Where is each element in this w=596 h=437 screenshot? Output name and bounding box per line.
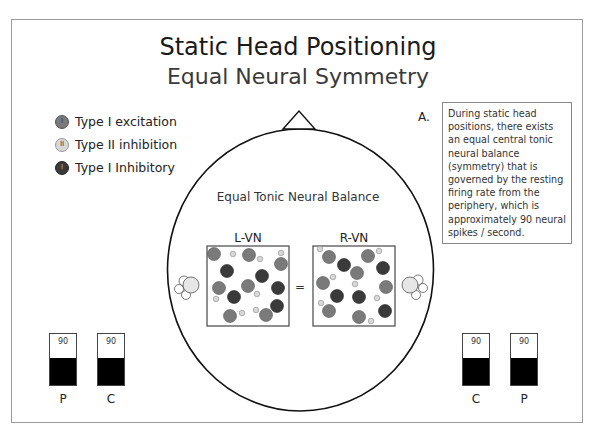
meter-fill bbox=[511, 358, 537, 385]
l-vn-label: L-VN bbox=[207, 231, 289, 245]
meter-right-p: 90 bbox=[510, 333, 538, 386]
meter-left-c: 90 bbox=[97, 333, 125, 386]
equals-sign: = bbox=[295, 280, 305, 294]
meter-fill bbox=[98, 358, 124, 385]
head-diagram bbox=[0, 0, 596, 437]
right-ear-icon bbox=[402, 275, 428, 300]
left-ear-icon bbox=[175, 276, 200, 300]
meter-label: P bbox=[49, 392, 77, 406]
meter-right-c: 90 bbox=[462, 333, 490, 386]
meter-label: C bbox=[462, 392, 490, 406]
meter-fill bbox=[50, 358, 76, 385]
center-caption: Equal Tonic Neural Balance bbox=[0, 190, 596, 204]
meter-left-p: 90 bbox=[49, 333, 77, 386]
meter-label: C bbox=[97, 392, 125, 406]
nose-icon bbox=[283, 111, 315, 129]
meter-label: P bbox=[510, 392, 538, 406]
meter-fill bbox=[463, 358, 489, 385]
r-vn-label: R-VN bbox=[313, 231, 395, 245]
